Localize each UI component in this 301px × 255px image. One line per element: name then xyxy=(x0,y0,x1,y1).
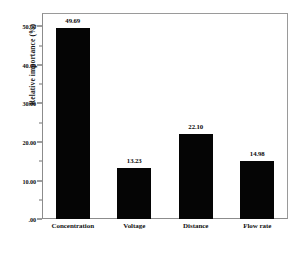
bar-value-label: 13.23 xyxy=(104,157,164,164)
bar xyxy=(179,134,213,219)
bar-value-label: 14.98 xyxy=(227,150,287,157)
x-axis-category-label: Flow rate xyxy=(217,222,297,230)
y-tick-label: 20.00 xyxy=(23,138,36,145)
bar xyxy=(240,161,274,219)
bar-value-label: 49.69 xyxy=(43,17,103,24)
y-axis-title: Relative importance (%) xyxy=(28,0,37,145)
bar xyxy=(56,28,90,219)
bars-layer: 49.6913.2322.1014.98 xyxy=(42,13,288,219)
bar-value-label: 22.10 xyxy=(166,123,226,130)
y-tick-label: 50.00 xyxy=(23,23,36,30)
bar xyxy=(117,168,151,219)
bar-chart-figure: Relative importance (%) .0010.0020.0030.… xyxy=(0,0,301,255)
x-axis-labels: ConcentrationVoltageDistanceFlow rate xyxy=(42,222,288,238)
y-tick-label: 40.00 xyxy=(23,61,36,68)
y-tick-label: 10.00 xyxy=(23,177,36,184)
y-tick-label: 30.00 xyxy=(23,100,36,107)
